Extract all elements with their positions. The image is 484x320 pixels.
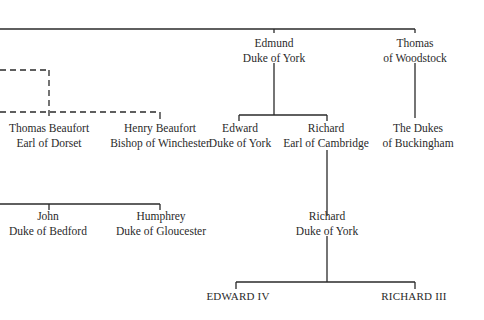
node-humphrey-duke-of-gloucester: Humphrey Duke of Gloucester: [116, 209, 206, 239]
node-name: EDWARD IV: [206, 289, 269, 304]
node-title: Duke of York: [243, 51, 305, 66]
node-name: Thomas Beaufort: [9, 121, 89, 136]
node-name: Richard: [283, 121, 369, 136]
node-title: Duke of Bedford: [9, 224, 87, 239]
node-john-duke-of-bedford: John Duke of Bedford: [9, 209, 87, 239]
node-richard-duke-of-york: Richard Duke of York: [296, 209, 358, 239]
node-thomas-of-woodstock: Thomas of Woodstock: [383, 36, 447, 66]
node-title: Earl of Cambridge: [283, 136, 369, 151]
node-henry-beaufort: Henry Beaufort Bishop of Winchester: [110, 121, 210, 151]
node-name: Edmund: [243, 36, 305, 51]
node-title: Bishop of Winchester: [110, 136, 210, 151]
node-edward-iv: EDWARD IV: [206, 289, 269, 304]
node-title: Duke of York: [296, 224, 358, 239]
node-title: of Buckingham: [382, 136, 453, 151]
node-name: Henry Beaufort: [110, 121, 210, 136]
node-title: Duke of Gloucester: [116, 224, 206, 239]
node-name: John: [9, 209, 87, 224]
node-edward-duke-of-york: Edward Duke of York: [209, 121, 271, 151]
node-richard-iii: RICHARD III: [381, 289, 446, 304]
node-thomas-beaufort: Thomas Beaufort Earl of Dorset: [9, 121, 89, 151]
node-name: Thomas: [383, 36, 447, 51]
node-dukes-of-buckingham: The Dukes of Buckingham: [382, 121, 453, 151]
node-richard-earl-of-cambridge: Richard Earl of Cambridge: [283, 121, 369, 151]
node-name: The Dukes: [382, 121, 453, 136]
node-title: Earl of Dorset: [9, 136, 89, 151]
node-name: RICHARD III: [381, 289, 446, 304]
node-name: Richard: [296, 209, 358, 224]
node-title: Duke of York: [209, 136, 271, 151]
node-name: Edward: [209, 121, 271, 136]
node-edmund-duke-of-york: Edmund Duke of York: [243, 36, 305, 66]
node-name: Humphrey: [116, 209, 206, 224]
node-title: of Woodstock: [383, 51, 447, 66]
